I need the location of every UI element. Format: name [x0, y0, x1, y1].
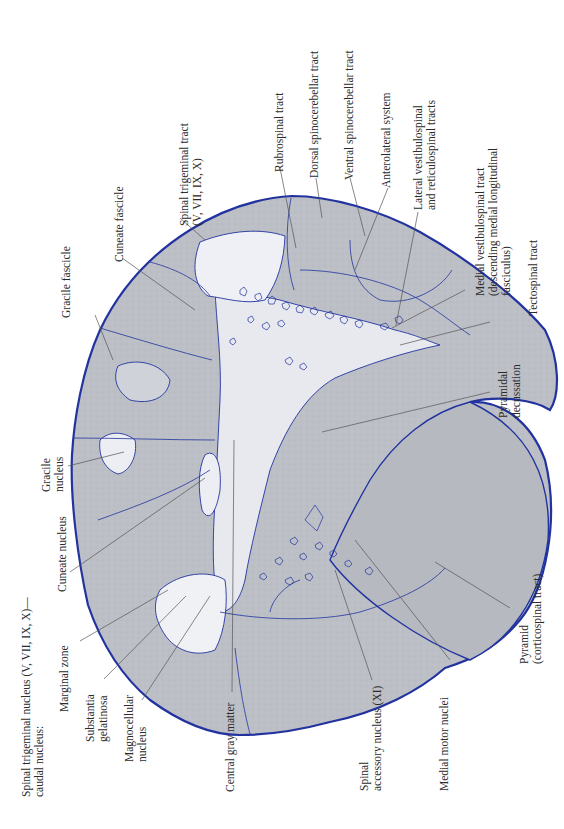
label-pyramid: Pyramid (corticospinal tract) [518, 574, 544, 664]
label-anterolateral-system: Anterolateral system [380, 93, 393, 188]
label-gracile-fascicle: Gracile fascicle [60, 246, 73, 318]
label-cuneate-nucleus: Cuneate nucleus [56, 516, 69, 592]
label-magnocellular-nucleus: Magnocellular nucleus [123, 695, 149, 762]
label-medial-vestibulospinal-tract: Medial vestibulospinal tract (descending… [474, 148, 513, 296]
label-cuneate-fascicle: Cuneate fascicle [113, 186, 126, 262]
label-ventral-spinocerebellar-tract: Ventral spinocerebellar tract [343, 50, 356, 180]
label-spinal-trigeminal-tract: Spinal trigeminal tract (V, VII, IX, X) [178, 123, 204, 226]
label-central-gray-matter: Central gray matter [224, 703, 237, 792]
label-pyramidal-decussation: Pyramidal decussation [497, 364, 523, 418]
label-rubrospinal-tract: Rubrospinal tract [273, 92, 286, 172]
label-spinal-accessory-nucleus: Spinal accessory nucleus (XI) [358, 686, 384, 791]
label-marginal-zone: Marginal zone [58, 645, 71, 712]
label-lateral-vestibulospinal-reticulospinal: Lateral vestibulospinal and reticulospin… [412, 100, 438, 210]
label-medial-motor-nuclei: Medial motor nuclei [438, 697, 451, 791]
label-tectospinal-tract: Tectospinal tract [527, 240, 540, 316]
label-substantia-gelatinosa: Substantia gelatinosa [84, 694, 110, 742]
label-gracile-nucleus: Gracile nucleus [40, 457, 66, 492]
label-dorsal-spinocerebellar-tract: Dorsal spinocerebellar tract [308, 51, 321, 178]
label-spinal-trigeminal-nucleus-caudal: Spinal trigeminal nucleus (V, VII, IX, X… [20, 597, 46, 797]
